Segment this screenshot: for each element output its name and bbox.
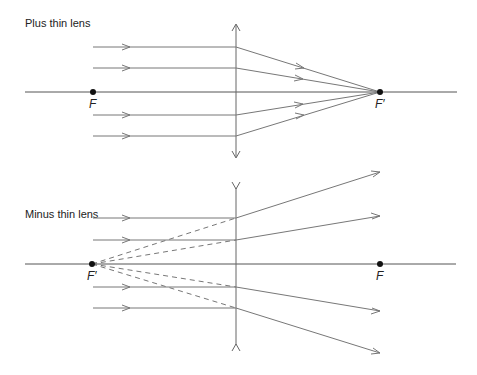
- plus-f-label: F: [89, 97, 96, 111]
- focal-point-f: [377, 261, 383, 267]
- minus-f-label: F: [376, 269, 383, 283]
- focal-point-f-prime: [377, 89, 383, 95]
- plus-f-prime-label: F′: [375, 97, 385, 111]
- thin-lens-diagram: [0, 0, 477, 375]
- virtual-rays: [92, 218, 236, 308]
- focal-point-f-prime: [89, 261, 95, 267]
- plus-lens-diagram: [25, 24, 457, 158]
- focal-point-f: [90, 89, 96, 95]
- minus-lens-diagram: [25, 171, 456, 354]
- incoming-rays: [93, 215, 236, 311]
- diverging-rays: [236, 171, 380, 354]
- minus-f-prime-label: F′: [87, 269, 97, 283]
